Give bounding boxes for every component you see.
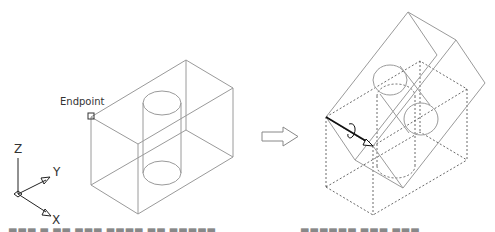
original-box-hidden [326,61,467,215]
endpoint-label: Endpoint [60,96,105,107]
rotated-cylinder-bottom-ellipse [404,103,438,135]
rotated-edge [373,146,403,188]
cylinder-top-ellipse [143,91,181,115]
z-axis-label: Z [14,142,22,156]
x-axis-label: X [52,213,60,227]
rotated-edge [456,40,485,83]
box-after-rotation [326,12,485,188]
rotated-edge [403,83,485,188]
box-top-face [91,60,233,144]
cylinder-bottom-ellipse [143,161,181,185]
rotated-cylinder-top-ellipse [373,65,407,95]
rotated-edge [355,160,403,188]
ucs-axis-icon: Z Y X [14,142,61,227]
figure-canvas: Z Y X Endpoint [0,0,495,232]
figure-caption-cropped: ▬▬▬ ▬ ▬▬ ▬▬▬ ▬▬▬▬ ▬▬ ▬▬▬▬▬ ▬▬▬▬▬▬ ▬▬▬ ▬▬… [0,226,495,232]
y-axis-label: Y [52,165,61,179]
rotation-axis-line [326,117,366,141]
arrow-right-icon [262,127,298,146]
box-before-rotation: Endpoint [60,60,233,214]
rotation-axis [326,117,373,146]
box-bottom-back-edges [91,130,233,185]
x-axis-line [18,194,46,212]
rotated-edge [408,12,437,55]
dashed-bottom [326,160,467,215]
y-axis-line [18,180,46,194]
